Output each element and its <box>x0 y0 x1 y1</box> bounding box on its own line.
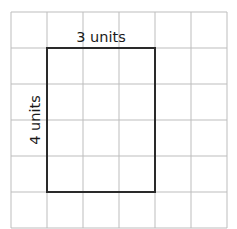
height-label: 4 units <box>27 95 43 144</box>
width-label: 3 units <box>76 29 125 45</box>
grid-diagram: 3 units 4 units <box>0 0 237 229</box>
